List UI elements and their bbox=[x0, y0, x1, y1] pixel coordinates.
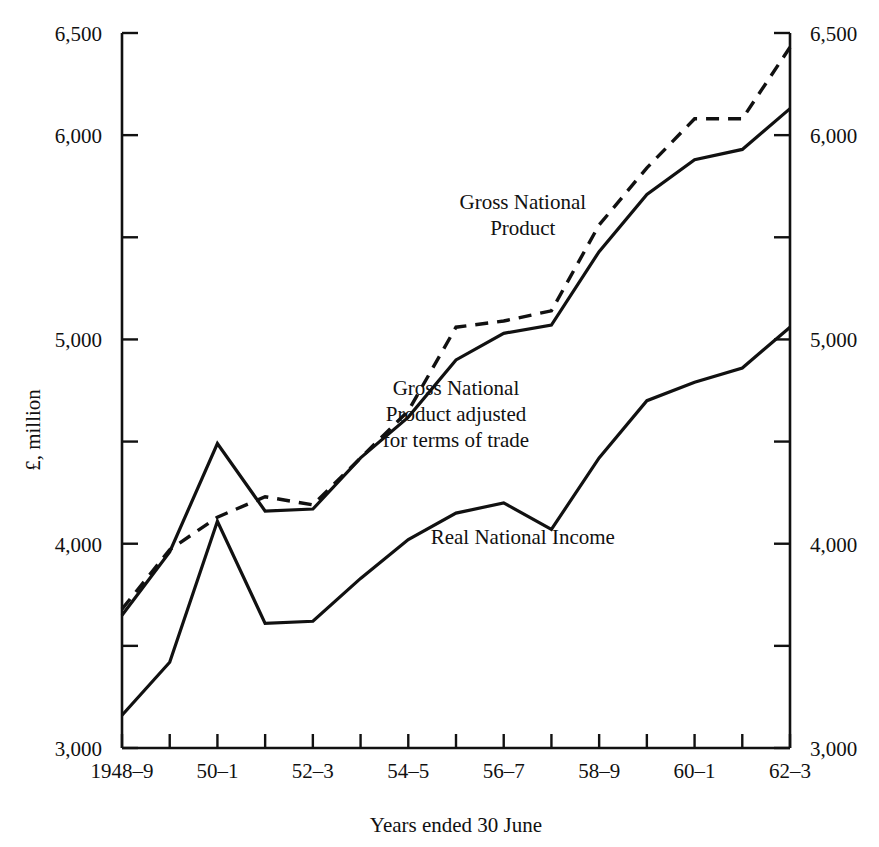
x-tick-label: 60–1 bbox=[674, 759, 716, 783]
y-tick-label-right: 3,000 bbox=[810, 737, 857, 761]
x-axis-tick-labels: 1948–950–152–354–556–758–960–162–3 bbox=[91, 759, 812, 783]
series-annotation-label: for terms of trade bbox=[383, 428, 529, 452]
series-annotations: Gross NationalProductGross NationalProdu… bbox=[383, 190, 615, 549]
series-annotation-label: Product bbox=[490, 216, 555, 240]
series-annotation-label: Gross National bbox=[460, 190, 587, 214]
y-tick-label-left: 4,000 bbox=[55, 533, 102, 557]
y-tick-label-right: 5,000 bbox=[810, 328, 857, 352]
figure-container: 3,0004,0005,0006,0006,500 3,0004,0005,00… bbox=[0, 0, 879, 847]
x-axis-ticks bbox=[122, 734, 790, 748]
y-tick-label-right: 4,000 bbox=[810, 533, 857, 557]
y-tick-label-right: 6,000 bbox=[810, 124, 857, 148]
series-annotation-label: Real National Income bbox=[431, 525, 615, 549]
series-annotation-label: Product adjusted bbox=[386, 402, 527, 426]
line-chart: 3,0004,0005,0006,0006,500 3,0004,0005,00… bbox=[0, 0, 879, 847]
y-tick-label-left: 6,000 bbox=[55, 124, 102, 148]
y-tick-label-left: 5,000 bbox=[55, 328, 102, 352]
y-axis-right-ticks bbox=[774, 33, 790, 748]
y-tick-label-right: 6,500 bbox=[810, 22, 857, 46]
y-axis-left-ticks bbox=[122, 33, 138, 748]
x-tick-label: 58–9 bbox=[578, 759, 620, 783]
x-tick-label: 50–1 bbox=[196, 759, 238, 783]
y-axis-title: £, million bbox=[21, 389, 45, 471]
x-tick-label: 52–3 bbox=[292, 759, 334, 783]
y-tick-label-left: 6,500 bbox=[55, 22, 102, 46]
y-tick-label-left: 3,000 bbox=[55, 737, 102, 761]
x-axis-title: Years ended 30 June bbox=[370, 813, 542, 837]
x-tick-label: 56–7 bbox=[483, 759, 525, 783]
x-tick-label: 1948–9 bbox=[91, 759, 154, 783]
series-annotation-label: Gross National bbox=[393, 376, 520, 400]
x-tick-label: 54–5 bbox=[387, 759, 429, 783]
y-axis-left-tick-labels: 3,0004,0005,0006,0006,500 bbox=[55, 22, 102, 761]
x-tick-label: 62–3 bbox=[769, 759, 811, 783]
y-axis-right-tick-labels: 3,0004,0005,0006,0006,500 bbox=[810, 22, 857, 761]
